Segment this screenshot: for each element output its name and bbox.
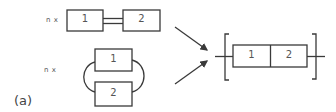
series-box-1-label: 1: [67, 13, 103, 24]
right-loop-arc: [132, 60, 144, 92]
parallel-box-2-label: 2: [95, 87, 132, 98]
series-box-2-label: 2: [123, 13, 160, 24]
arrow-bottom-icon: [175, 61, 207, 84]
result-box-1-label: 1: [233, 49, 270, 60]
left-loop-arc: [84, 62, 95, 92]
figure-caption: (a): [14, 93, 32, 108]
parallel-multiplier-label: n x: [44, 66, 56, 74]
result-config: [215, 34, 325, 80]
series-multiplier-label: n x: [46, 16, 58, 24]
result-box-2-label: 2: [271, 49, 307, 60]
arrow-top-icon: [175, 27, 207, 50]
parallel-box-1-label: 1: [95, 53, 132, 64]
